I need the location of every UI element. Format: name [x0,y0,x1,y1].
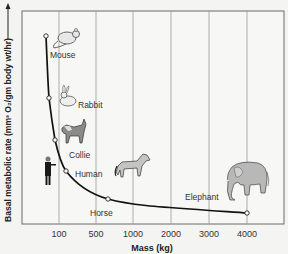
y-axis-arrow-icon [6,3,11,9]
point-collie [53,138,57,142]
x-tick-2000: 2000 [161,229,181,239]
x-tick-100: 100 [51,229,66,239]
x-tick-3000: 3000 [199,229,219,239]
point-mouse [44,34,48,38]
point-elephant [245,211,249,215]
x-tick-4000: 4000 [237,229,257,239]
x-tick-1000: 1000 [123,229,143,239]
y-axis-label: Basal metabolic rate (mm³ O₂/gm body wt/… [3,38,13,222]
x-tick-500: 500 [88,229,103,239]
label-rabbit: Rabbit [78,100,103,110]
x-axis-label: Mass (kg) [131,243,173,253]
point-rabbit [47,96,51,100]
x-axis-ticks: 100 500 1000 2000 3000 4000 [51,229,257,239]
label-horse: Horse [90,208,113,218]
y-axis-label-group: Basal metabolic rate (mm³ O₂/gm body wt/… [3,3,13,222]
label-mouse: Mouse [50,50,76,60]
point-horse [106,197,110,201]
label-collie: Collie [69,150,91,160]
point-human [64,169,68,173]
label-human: Human [75,169,103,179]
label-elephant: Elephant [185,192,219,202]
metabolic-rate-chart: 100 500 1000 2000 3000 4000 Mass (kg) Ba… [0,0,288,254]
